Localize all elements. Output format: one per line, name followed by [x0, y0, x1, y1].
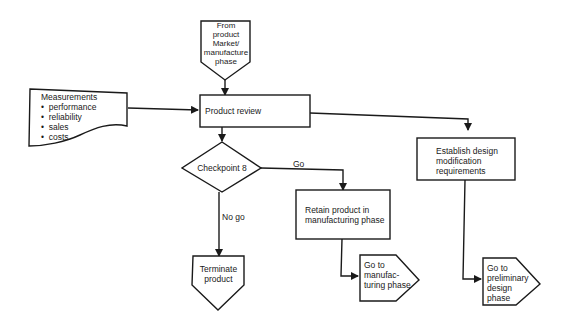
measurement-item: reliability: [49, 112, 82, 122]
go-manufacturing-line: manufac-: [364, 270, 411, 280]
retain-line: Retain product in: [305, 205, 384, 215]
start-node: From product Market/ manufacture phase: [202, 21, 250, 66]
go-preliminary-line: phase: [487, 293, 529, 303]
measurement-item: sales: [49, 122, 69, 132]
retain-line: manufacturing phase: [305, 215, 384, 225]
product-review-label: Product review: [205, 106, 261, 116]
measurements-title: Measurements: [41, 92, 97, 102]
start-line: Market/: [202, 39, 250, 48]
bullet-icon: •: [41, 122, 49, 132]
edge-label-go: Go: [293, 159, 304, 169]
start-line: From: [202, 21, 250, 30]
terminate-node: Terminate product: [193, 264, 244, 284]
bullet-icon: •: [41, 112, 49, 122]
go-manufacturing-line: turing phase: [364, 280, 411, 290]
measurement-item: performance: [49, 102, 97, 112]
edge-label-no-go: No go: [222, 212, 245, 222]
terminate-line: product: [193, 274, 244, 284]
checkpoint-label: Checkpoint 8: [192, 163, 252, 173]
go-preliminary-line: preliminary: [487, 273, 529, 283]
establish-node: Establish design modification requiremen…: [436, 146, 498, 176]
start-line: product: [202, 30, 250, 39]
establish-line: modification: [436, 156, 498, 166]
terminate-line: Terminate: [193, 264, 244, 274]
go-manufacturing-node: Go to manufac- turing phase: [364, 260, 411, 290]
go-preliminary-line: design: [487, 283, 529, 293]
bullet-icon: •: [41, 102, 49, 112]
start-line: manufacture: [202, 48, 250, 57]
establish-line: requirements: [436, 166, 498, 176]
go-preliminary-line: Go to: [487, 263, 529, 273]
bullet-icon: •: [41, 132, 49, 142]
go-manufacturing-line: Go to: [364, 260, 411, 270]
go-preliminary-node: Go to preliminary design phase: [487, 263, 529, 303]
start-line: phase: [202, 57, 250, 66]
measurement-item: costs: [49, 132, 69, 142]
retain-node: Retain product in manufacturing phase: [305, 205, 384, 225]
establish-line: Establish design: [436, 146, 498, 156]
measurements-node: Measurements • performance • reliability…: [41, 92, 97, 142]
